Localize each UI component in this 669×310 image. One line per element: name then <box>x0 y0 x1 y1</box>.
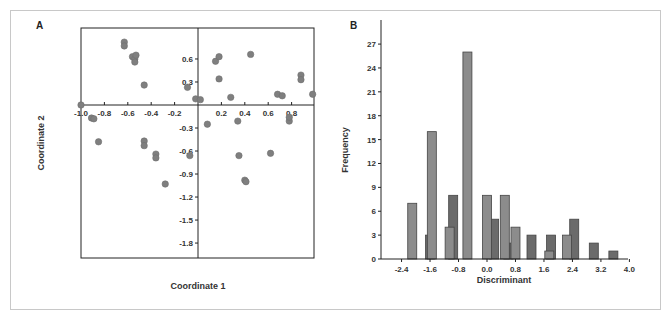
y-tick-label: -0.9 <box>179 170 193 179</box>
y-tick-label: 12 <box>367 159 376 168</box>
y-tick-label: 24 <box>367 64 376 73</box>
y-tick-label: -1.5 <box>179 216 193 225</box>
x-tick-label: 0.2 <box>216 109 228 118</box>
x-tick-label: -0.8 <box>98 109 112 118</box>
scatter-point <box>133 52 139 58</box>
scatter-point <box>216 53 222 59</box>
x-tick-label: 4.0 <box>624 265 636 274</box>
histogram-bar <box>500 195 509 259</box>
y-tick-label: 27 <box>367 40 376 49</box>
y-tick-label: -0.3 <box>179 124 193 133</box>
x-tick-label: 0.4 <box>239 109 251 118</box>
y-tick-label: 21 <box>367 88 376 97</box>
panel-b-histogram: B -2.4-1.6-0.80.00.81.62.43.24.0 0369121… <box>340 20 636 285</box>
histogram-bar <box>511 227 520 259</box>
x-tick-label: -1.0 <box>74 109 88 118</box>
panel-a-y-title: Coordinate 2 <box>36 115 46 170</box>
scatter-point <box>309 91 315 97</box>
scatter-point <box>95 139 101 145</box>
y-tick-label: 0.6 <box>182 55 194 64</box>
scatter-point <box>184 84 190 90</box>
x-tick-label: 2.4 <box>567 265 579 274</box>
x-tick-label: 3.2 <box>595 265 607 274</box>
panel-a-y-ticks: 0.60.3-0.3-0.6-0.9-1.2-1.5-1.8 <box>179 55 198 248</box>
x-tick-label: -0.2 <box>168 109 182 118</box>
scatter-point <box>132 59 138 65</box>
panel-a-x-title: Coordinate 1 <box>170 281 225 291</box>
panel-b-bars <box>408 52 618 259</box>
scatter-point <box>247 51 253 57</box>
y-tick-label: 0 <box>372 255 377 264</box>
scatter-point <box>243 179 249 185</box>
x-tick-label: -2.4 <box>395 265 409 274</box>
scatter-point <box>216 76 222 82</box>
y-tick-label: -1.8 <box>179 239 193 248</box>
panel-a-points <box>78 39 316 187</box>
histogram-bar <box>408 203 417 259</box>
scatter-point <box>141 82 147 88</box>
y-tick-label: 18 <box>367 112 376 121</box>
scatter-point <box>267 150 273 156</box>
x-tick-label: 1.6 <box>538 265 550 274</box>
scatter-point <box>91 116 97 122</box>
histogram-bar <box>589 243 598 259</box>
histogram-bar <box>545 251 554 259</box>
scatter-point <box>228 94 234 100</box>
scatter-point <box>187 152 193 158</box>
scatter-point <box>279 93 285 99</box>
histogram-bar <box>483 195 492 259</box>
x-tick-label: 0.8 <box>510 265 522 274</box>
panel-b-y-ticks: 0369121518212427 <box>367 40 381 264</box>
x-tick-label: -1.6 <box>423 265 437 274</box>
histogram-bar <box>527 235 536 259</box>
y-tick-label: -1.2 <box>179 193 193 202</box>
histogram-bar <box>427 132 436 259</box>
scatter-point <box>78 102 84 108</box>
panel-a-scatter: A -1.0-0.8-0.6-0.4-0.20.20.40.60.8 0.60.… <box>36 20 316 291</box>
histogram-bar <box>445 227 454 259</box>
scatter-point <box>235 118 241 124</box>
scatter-point <box>204 121 210 127</box>
scatter-point <box>286 114 292 120</box>
x-tick-label: -0.4 <box>144 109 158 118</box>
histogram-bar <box>609 251 618 259</box>
scatter-point <box>121 43 127 49</box>
y-tick-label: 15 <box>367 136 376 145</box>
y-tick-label: 3 <box>372 231 377 240</box>
scatter-point <box>197 96 203 102</box>
panel-b-label: B <box>350 20 357 31</box>
y-tick-label: 9 <box>372 183 377 192</box>
scatter-point <box>153 155 159 161</box>
panel-b-y-title: Frequency <box>340 127 350 173</box>
x-tick-label: -0.8 <box>452 265 466 274</box>
scatter-point <box>236 152 242 158</box>
panel-b-x-ticks: -2.4-1.6-0.80.00.81.62.43.24.0 <box>395 259 636 274</box>
scatter-point <box>298 76 304 82</box>
scatter-point <box>162 181 168 187</box>
x-tick-label: -0.6 <box>121 109 135 118</box>
x-tick-label: 0.0 <box>481 265 493 274</box>
histogram-bar <box>463 52 472 259</box>
y-tick-label: 6 <box>372 207 377 216</box>
x-tick-label: 0.6 <box>263 109 275 118</box>
panel-a-label: A <box>36 20 43 31</box>
panel-b-x-title: Discriminant <box>477 275 532 285</box>
histogram-bar <box>563 235 572 259</box>
panel-a-x-ticks: -1.0-0.8-0.6-0.4-0.20.20.40.60.8 <box>74 102 298 118</box>
scatter-point <box>141 142 147 148</box>
